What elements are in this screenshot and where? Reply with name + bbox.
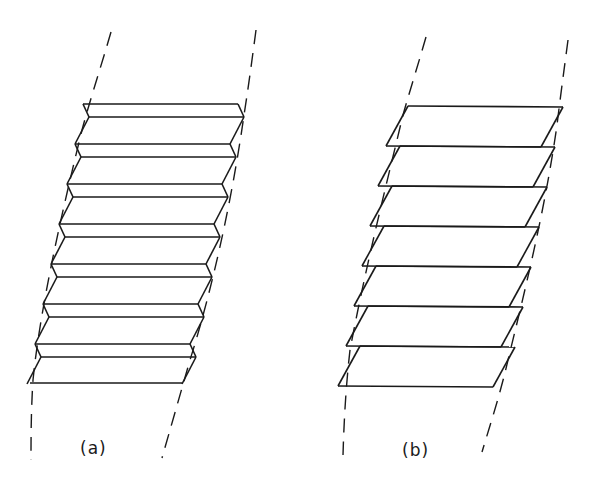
panel-a-folded-layers	[27, 30, 256, 460]
panel-b-right-boundary-dashed	[482, 40, 568, 452]
panel-b-label: (b)	[402, 440, 429, 460]
panel-a-left-boundary-dashed	[31, 32, 111, 460]
panel-a-right-boundary-dashed	[162, 30, 256, 458]
panel-b-parallelogram-layers	[338, 37, 568, 455]
panel-b-left-boundary-dashed	[343, 37, 426, 455]
figure-canvas	[0, 0, 595, 485]
panel-a-layer-edges	[27, 104, 244, 384]
panel-a-label: (a)	[80, 438, 107, 458]
